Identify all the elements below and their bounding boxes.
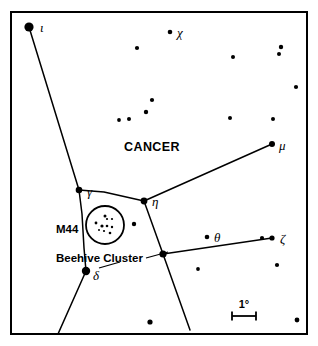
star-label-chi: χ: [175, 25, 183, 40]
label-m44: M44: [56, 223, 79, 235]
field-star-15: [196, 267, 200, 271]
cluster-member-star-0: [95, 222, 98, 225]
cluster-member-star-1: [104, 215, 107, 218]
cluster-member-star-6: [111, 226, 113, 228]
label-scale: 1°: [239, 298, 250, 310]
star-label-eta: η: [152, 194, 158, 209]
field-star-6: [144, 110, 148, 114]
field-star-2: [279, 45, 283, 49]
star-gamma[interactable]: [76, 187, 83, 194]
star-theta[interactable]: [205, 235, 210, 240]
field-star-17: [295, 318, 300, 323]
label-beehive: Beehive Cluster: [56, 252, 143, 264]
cluster-member-star-9: [98, 229, 100, 231]
field-star-13: [260, 236, 264, 240]
cluster-member-star-3: [111, 218, 113, 220]
field-star-14: [275, 263, 279, 267]
field-star-4: [294, 85, 298, 89]
star-label-mu: μ: [278, 138, 286, 153]
field-star-0: [135, 46, 139, 50]
star-label-zeta: ζ: [280, 231, 286, 246]
cluster-member-star-4: [100, 224, 103, 227]
field-star-9: [228, 116, 232, 120]
field-star-16: [147, 319, 152, 324]
star-mu[interactable]: [269, 141, 275, 147]
star-label-delta: δ: [93, 268, 100, 283]
cluster-member-star-2: [106, 218, 108, 220]
star-delta[interactable]: [82, 267, 90, 275]
star-eta[interactable]: [141, 198, 148, 205]
field-star-5: [150, 98, 154, 102]
field-star-8: [117, 118, 121, 122]
star-zeta[interactable]: [269, 235, 274, 240]
star-iota[interactable]: [24, 22, 33, 31]
field-star-11: [132, 222, 136, 226]
star-chi[interactable]: [168, 30, 173, 35]
field-star-12: [159, 250, 166, 257]
star-chart: ιχμγηθζδCANCERM44Beehive Cluster1°: [0, 0, 318, 346]
chart-border: [11, 12, 307, 334]
star-label-gamma: γ: [87, 184, 93, 199]
cluster-member-star-5: [106, 225, 109, 228]
field-star-3: [277, 52, 281, 56]
cluster-member-star-8: [109, 232, 112, 235]
cluster-member-star-7: [103, 230, 105, 232]
label-cancer: CANCER: [124, 140, 180, 154]
star-label-iota: ι: [40, 20, 44, 35]
star-chart-canvas: ιχμγηθζδCANCERM44Beehive Cluster1°: [0, 0, 318, 346]
field-star-7: [127, 117, 131, 121]
field-star-1: [231, 55, 235, 59]
star-label-theta: θ: [214, 230, 221, 245]
field-star-10: [271, 117, 275, 121]
